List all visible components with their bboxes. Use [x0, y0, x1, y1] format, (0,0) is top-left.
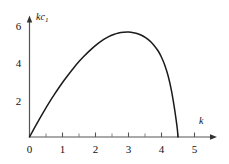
x-tick-label-5: 5 — [188, 144, 201, 155]
plot-canvas — [0, 0, 229, 164]
y-axis-title: kc1 — [36, 12, 48, 23]
y-axis — [27, 16, 32, 138]
x-tick-label-2: 2 — [89, 144, 102, 155]
x-axis-arrow-icon — [210, 134, 217, 139]
x-axis — [30, 134, 218, 139]
x-tick-label-1: 1 — [56, 144, 69, 155]
x-tick-label-0: 0 — [23, 144, 36, 155]
y-axis-title-main: kc — [36, 11, 45, 22]
y-tick-label-6: 6 — [12, 21, 25, 32]
x-axis-title: k — [199, 116, 203, 126]
y-axis-arrow-icon — [27, 16, 32, 23]
data-curve — [30, 32, 179, 137]
x-tick-label-3: 3 — [122, 144, 135, 155]
y-tick-label-2: 2 — [12, 96, 25, 107]
x-tick-label-4: 4 — [155, 144, 168, 155]
y-tick-label-4: 4 — [12, 58, 25, 69]
chart-figure: kc1 k 0 1 2 3 4 5 2 4 6 — [0, 0, 229, 164]
y-axis-title-subscript: 1 — [45, 16, 49, 24]
